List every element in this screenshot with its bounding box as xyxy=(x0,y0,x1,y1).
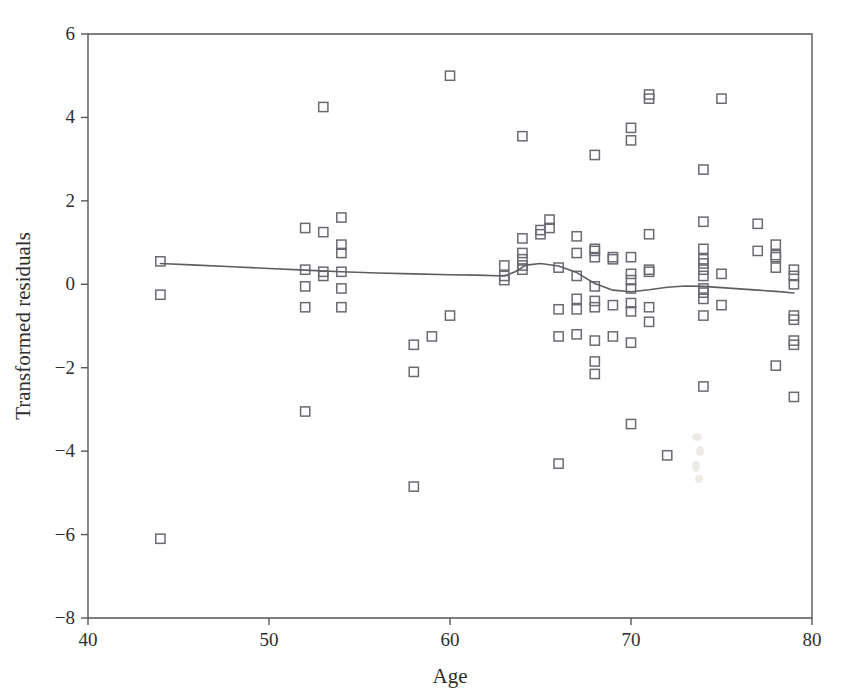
axis-tick-labels: 6420−2−4−6−84050607080 xyxy=(55,23,822,650)
y-tick-label: −6 xyxy=(55,524,75,545)
data-point-marker xyxy=(156,257,165,266)
data-point-marker xyxy=(699,294,708,303)
scatter-points xyxy=(156,71,799,543)
data-point-marker xyxy=(717,269,726,278)
data-point-marker xyxy=(626,253,635,262)
plot-axes xyxy=(88,34,812,618)
data-point-marker xyxy=(699,271,708,280)
plot-canvas: 6420−2−4−6−84050607080 Age Transformed r… xyxy=(0,0,842,700)
data-point-marker xyxy=(319,228,328,237)
data-point-marker xyxy=(626,338,635,347)
y-tick-label: −4 xyxy=(55,440,76,461)
data-point-marker xyxy=(699,311,708,320)
data-point-marker xyxy=(319,102,328,111)
data-point-marker xyxy=(699,244,708,253)
data-point-marker xyxy=(409,482,418,491)
data-point-marker xyxy=(427,332,436,341)
data-point-marker xyxy=(608,301,617,310)
data-point-marker xyxy=(409,340,418,349)
x-tick-label: 60 xyxy=(441,629,460,650)
data-point-marker xyxy=(572,305,581,314)
data-point-marker xyxy=(771,361,780,370)
data-point-marker xyxy=(699,217,708,226)
data-point-marker xyxy=(445,71,454,80)
data-point-marker xyxy=(301,223,310,232)
axis-ticks xyxy=(81,34,812,625)
data-point-marker xyxy=(301,407,310,416)
y-tick-label: −2 xyxy=(55,357,75,378)
data-point-marker xyxy=(645,303,654,312)
y-axis-title: Transformed residuals xyxy=(11,232,35,420)
data-point-marker xyxy=(572,294,581,303)
data-point-marker xyxy=(590,357,599,366)
data-point-marker xyxy=(518,255,527,264)
data-point-marker xyxy=(572,330,581,339)
data-point-marker xyxy=(626,419,635,428)
data-point-marker xyxy=(753,246,762,255)
x-tick-label: 80 xyxy=(803,629,822,650)
data-point-marker xyxy=(572,248,581,257)
y-tick-label: 6 xyxy=(66,23,76,44)
data-point-marker xyxy=(626,123,635,132)
data-point-marker xyxy=(554,305,563,314)
data-point-marker xyxy=(663,451,672,460)
data-point-marker xyxy=(699,382,708,391)
data-point-marker xyxy=(518,234,527,243)
data-point-marker xyxy=(554,459,563,468)
data-point-marker xyxy=(156,290,165,299)
x-tick-label: 40 xyxy=(79,629,98,650)
data-point-marker xyxy=(156,534,165,543)
scan-artifact-group xyxy=(692,433,704,483)
data-point-marker xyxy=(409,367,418,376)
data-point-marker xyxy=(301,303,310,312)
data-point-marker xyxy=(717,301,726,310)
y-tick-label: 0 xyxy=(66,273,76,294)
data-point-marker xyxy=(699,265,708,274)
residual-scatter-figure: 6420−2−4−6−84050607080 Age Transformed r… xyxy=(0,0,842,700)
data-point-marker xyxy=(626,269,635,278)
data-point-marker xyxy=(626,136,635,145)
x-tick-label: 70 xyxy=(622,629,641,650)
data-point-marker xyxy=(572,232,581,241)
data-point-marker xyxy=(500,261,509,270)
data-point-marker xyxy=(301,282,310,291)
x-tick-label: 50 xyxy=(260,629,279,650)
data-point-marker xyxy=(645,317,654,326)
data-point-marker xyxy=(337,303,346,312)
x-axis-title: Age xyxy=(433,664,468,688)
data-point-marker xyxy=(590,303,599,312)
data-point-marker xyxy=(337,213,346,222)
data-point-marker xyxy=(753,219,762,228)
data-point-marker xyxy=(590,150,599,159)
data-point-marker xyxy=(645,230,654,239)
data-point-marker xyxy=(608,332,617,341)
y-tick-label: 4 xyxy=(66,106,76,127)
data-point-marker xyxy=(518,132,527,141)
data-point-marker xyxy=(771,240,780,249)
y-tick-label: −8 xyxy=(55,607,75,628)
data-point-marker xyxy=(771,263,780,272)
data-point-marker xyxy=(337,284,346,293)
data-point-marker xyxy=(554,332,563,341)
data-point-marker xyxy=(699,165,708,174)
data-point-marker xyxy=(789,392,798,401)
data-point-marker xyxy=(717,94,726,103)
data-point-marker xyxy=(590,296,599,305)
data-point-marker xyxy=(445,311,454,320)
data-point-marker xyxy=(590,336,599,345)
data-point-marker xyxy=(789,265,798,274)
plot-frame xyxy=(88,34,812,618)
data-point-marker xyxy=(518,248,527,257)
data-point-marker xyxy=(590,369,599,378)
y-tick-label: 2 xyxy=(66,190,76,211)
